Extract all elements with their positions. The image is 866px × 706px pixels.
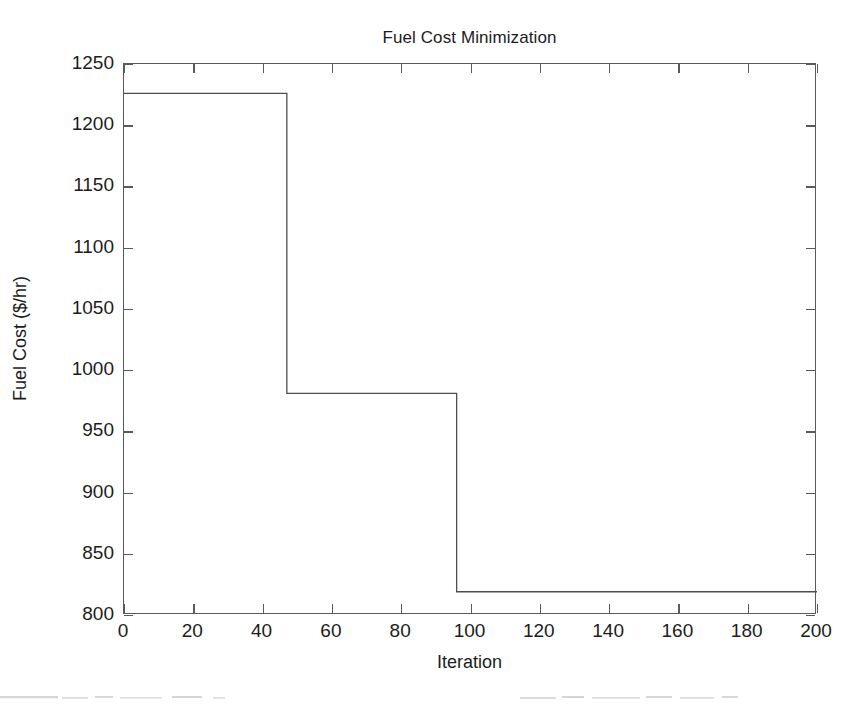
x-axis-tick-label: 80 <box>390 620 411 642</box>
y-axis-tick-mirror <box>806 64 815 65</box>
x-axis-tick-mirror <box>124 64 125 73</box>
x-axis-tick-label: 140 <box>592 620 624 642</box>
x-axis-tick <box>748 604 749 613</box>
x-axis-tick <box>817 604 818 613</box>
x-axis-tick-labels: 020406080100120140160180200 <box>123 620 816 650</box>
fuel-cost-line <box>124 93 817 591</box>
y-axis-tick <box>124 125 133 126</box>
x-axis-tick <box>332 604 333 613</box>
y-axis-tick-label: 1100 <box>73 236 114 258</box>
x-axis-tick-mirror <box>678 64 679 73</box>
y-axis-tick-label: 850 <box>82 542 114 564</box>
x-axis-tick-label: 100 <box>454 620 486 642</box>
x-axis-tick-label: 160 <box>662 620 694 642</box>
x-axis-tick <box>401 604 402 613</box>
x-axis-tick <box>678 604 679 613</box>
y-axis-tick-mirror <box>806 309 815 310</box>
y-axis-tick-label: 1250 <box>72 52 114 74</box>
chart-title: Fuel Cost Minimization <box>123 28 816 48</box>
x-axis-tick-mirror <box>609 64 610 73</box>
y-axis-tick <box>124 248 133 249</box>
x-axis-tick <box>471 604 472 613</box>
y-axis-tick <box>124 370 133 371</box>
y-axis-tick-label: 1150 <box>73 174 114 196</box>
y-axis-tick-mirror <box>806 493 815 494</box>
x-axis-tick-label: 0 <box>118 620 129 642</box>
y-axis-tick-label: 950 <box>82 419 114 441</box>
y-axis-tick-mirror <box>806 125 815 126</box>
x-axis-tick-mirror <box>332 64 333 73</box>
x-axis-tick-label: 180 <box>731 620 763 642</box>
x-axis-tick-label: 20 <box>182 620 203 642</box>
y-axis-title: Fuel Cost ($/hr) <box>10 63 38 614</box>
x-axis-title: Iteration <box>123 652 816 673</box>
y-axis-tick-mirror <box>806 615 815 616</box>
y-axis-tick <box>124 186 133 187</box>
x-axis-tick-mirror <box>748 64 749 73</box>
x-axis-tick-mirror <box>263 64 264 73</box>
x-axis-tick <box>540 604 541 613</box>
x-axis-tick-mirror <box>471 64 472 73</box>
x-axis-tick <box>193 604 194 613</box>
y-axis-tick-label: 900 <box>82 481 114 503</box>
x-axis-tick-mirror <box>193 64 194 73</box>
x-axis-tick-mirror <box>817 64 818 73</box>
x-axis-tick <box>263 604 264 613</box>
y-axis-tick <box>124 554 133 555</box>
y-axis-tick <box>124 64 133 65</box>
y-axis-tick-mirror <box>806 248 815 249</box>
x-axis-tick <box>609 604 610 613</box>
x-axis-tick-label: 120 <box>523 620 555 642</box>
y-axis-tick-label: 800 <box>82 603 114 625</box>
x-axis-tick-label: 40 <box>251 620 272 642</box>
y-axis-tick-label: 1000 <box>72 358 114 380</box>
x-axis-tick-mirror <box>401 64 402 73</box>
data-series-svg <box>124 64 817 615</box>
x-axis-tick-label: 200 <box>800 620 832 642</box>
y-axis-tick-mirror <box>806 370 815 371</box>
x-axis-tick-mirror <box>540 64 541 73</box>
y-axis-tick <box>124 309 133 310</box>
y-axis-tick-label: 1050 <box>72 297 114 319</box>
y-axis-tick <box>124 493 133 494</box>
plot-area <box>123 63 816 614</box>
x-axis-tick-label: 60 <box>320 620 341 642</box>
y-axis-tick-mirror <box>806 431 815 432</box>
y-axis-tick-mirror <box>806 554 815 555</box>
y-axis-tick-label: 1200 <box>72 113 114 135</box>
y-axis-tick-mirror <box>806 186 815 187</box>
x-axis-tick <box>124 604 125 613</box>
y-axis-tick <box>124 615 133 616</box>
y-axis-tick <box>124 431 133 432</box>
scan-noise-artifact <box>0 692 866 706</box>
figure-canvas: Fuel Cost Minimization 80085090095010001… <box>0 0 866 706</box>
